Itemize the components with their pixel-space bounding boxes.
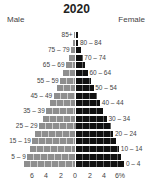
male-bar — [54, 93, 76, 100]
male-bar — [24, 161, 75, 168]
x-tick: 2 — [88, 172, 92, 179]
age-group-label: 35 – 39 — [23, 107, 45, 115]
x-tick: 0 — [73, 172, 77, 179]
age-group-label: 25 – 29 — [16, 122, 38, 130]
female-bar — [76, 108, 104, 115]
female-bar — [76, 93, 97, 100]
female-bar — [76, 123, 111, 130]
pyramid-row: 75 – 79 — [0, 47, 153, 54]
age-group-label: 30 – 34 — [108, 115, 130, 123]
age-group-label: 80 – 84 — [80, 39, 102, 47]
age-group-label: 0 – 4 — [126, 160, 140, 168]
age-group-label: 70 – 74 — [84, 54, 106, 62]
male-bar — [32, 138, 75, 145]
female-bar — [76, 100, 101, 107]
pyramid-row: 70 – 74 — [0, 55, 153, 62]
x-tick: 4 — [44, 172, 48, 179]
age-group-label: 10 – 14 — [121, 145, 143, 153]
female-bar — [76, 47, 81, 54]
age-group-label: 45 – 49 — [30, 92, 52, 100]
female-bar — [76, 70, 88, 77]
x-tick: 6% — [115, 172, 125, 179]
pyramid-row: 40 – 44 — [0, 100, 153, 107]
pyramid-row: 20 – 24 — [0, 131, 153, 138]
x-axis: 6 4 2 0 2 4 6% — [0, 172, 153, 182]
pyramid-row: 0 – 4 — [0, 161, 153, 168]
female-bar — [76, 78, 91, 85]
pyramid-row: 85+ — [0, 32, 153, 39]
pyramid-row: 25 – 29 — [0, 123, 153, 130]
female-bar — [76, 116, 107, 123]
pyramid-row: 15 – 19 — [0, 138, 153, 145]
pyramid-row: 30 – 34 — [0, 116, 153, 123]
age-group-label: 5 – 9 — [11, 153, 25, 161]
pyramid-row: 80 – 84 — [0, 40, 153, 47]
age-group-label: 60 – 64 — [89, 69, 111, 77]
age-group-label: 75 – 79 — [48, 46, 70, 54]
pyramid-row: 5 – 9 — [0, 154, 153, 161]
female-bar — [76, 161, 125, 168]
female-bar — [76, 138, 117, 145]
female-bar — [76, 131, 114, 138]
female-bar — [76, 146, 120, 153]
age-group-label: 50 – 54 — [95, 84, 117, 92]
pyramid-plot: 0 – 45 – 910 – 1415 – 1920 – 2425 – 2930… — [0, 32, 153, 169]
age-group-label: 55 – 59 — [37, 77, 59, 85]
pyramid-row: 65 – 69 — [0, 62, 153, 69]
male-bar — [60, 78, 75, 85]
pyramid-row: 60 – 64 — [0, 70, 153, 77]
male-bar — [30, 146, 76, 153]
male-bar — [50, 100, 76, 107]
female-bar — [76, 40, 79, 47]
male-bar — [69, 55, 76, 62]
female-bar — [76, 62, 85, 69]
age-group-label: 15 – 19 — [9, 137, 31, 145]
male-bar — [35, 131, 75, 138]
pyramid-row: 50 – 54 — [0, 85, 153, 92]
male-bar — [57, 85, 76, 92]
pyramid-row: 45 – 49 — [0, 93, 153, 100]
male-bar — [27, 154, 75, 161]
age-group-label: 20 – 24 — [115, 130, 137, 138]
pyramid-row: 35 – 39 — [0, 108, 153, 115]
male-bar — [43, 116, 76, 123]
male-bar — [46, 108, 75, 115]
chart-title: 2020 — [0, 2, 153, 16]
x-tick: 6 — [30, 172, 34, 179]
female-bar — [76, 85, 94, 92]
male-label: Male — [7, 15, 24, 24]
age-group-label: 65 – 69 — [43, 61, 65, 69]
male-bar — [63, 70, 75, 77]
male-bar — [39, 123, 76, 130]
age-group-label: 40 – 44 — [102, 99, 124, 107]
male-bar — [66, 62, 75, 69]
female-label: Female — [118, 15, 145, 24]
female-bar — [76, 32, 78, 39]
x-tick: 2 — [59, 172, 63, 179]
x-tick: 4 — [102, 172, 106, 179]
pyramid-row: 10 – 14 — [0, 146, 153, 153]
pyramid-row: 55 – 59 — [0, 78, 153, 85]
female-bar — [76, 154, 122, 161]
female-bar — [76, 55, 83, 62]
age-group-label: 85+ — [62, 31, 73, 39]
